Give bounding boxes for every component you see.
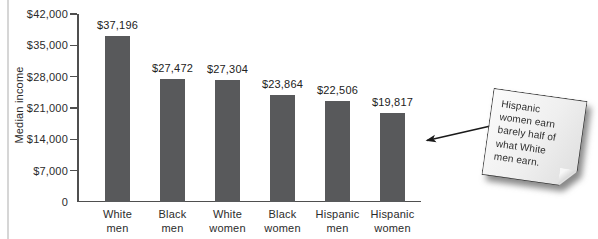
y-tick-mark <box>70 107 77 109</box>
y-tick-label: $42,000 <box>8 7 68 21</box>
bar-hispanic-women <box>380 113 405 202</box>
y-axis-line <box>77 14 79 202</box>
x-category-label: Hispanic women <box>351 208 435 235</box>
bar-white-men <box>105 36 130 202</box>
y-tick-label: $7,000 <box>8 164 68 178</box>
y-tick-label: $21,000 <box>8 101 68 115</box>
y-tick-mark <box>70 13 77 15</box>
y-tick-mark <box>70 45 77 47</box>
figure: Median income 0$7,000$14,000$21,000$28,0… <box>0 0 598 239</box>
y-tick-mark <box>70 139 77 141</box>
y-tick-mark <box>70 170 77 172</box>
bar-white-women <box>215 80 240 202</box>
y-tick-label: 0 <box>8 195 68 209</box>
bar-value-label: $27,304 <box>186 63 270 75</box>
y-tick-label: $28,000 <box>8 70 68 84</box>
bar-value-label: $37,196 <box>76 19 160 31</box>
sticky-note: Hispanic women earn barely half of what … <box>487 94 582 182</box>
bar-hispanic-men <box>325 101 350 202</box>
bar-value-label: $19,817 <box>351 96 435 108</box>
sticky-note-paper: Hispanic women earn barely half of what … <box>481 88 587 188</box>
sticky-note-text: Hispanic women earn barely half of what … <box>493 97 581 174</box>
bar-black-women <box>270 95 295 202</box>
y-tick-mark <box>70 76 77 78</box>
bar-value-label: $22,506 <box>296 84 380 96</box>
y-tick-label: $14,000 <box>8 132 68 146</box>
bar-black-men <box>160 79 185 202</box>
y-tick-label: $35,000 <box>8 38 68 52</box>
